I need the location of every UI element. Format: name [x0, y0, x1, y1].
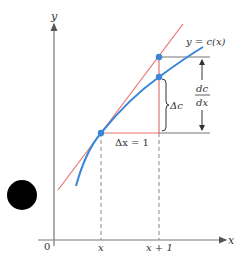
tangent-point-at-x-plus-1: [156, 54, 162, 60]
x-tick-label: x: [98, 242, 104, 253]
marginal-cost-diagram: y x 0 x x + 1 y = c(x) Δx = 1 Δc dc dx: [0, 0, 246, 266]
derivative-numerator: dc: [196, 83, 208, 94]
delta-c-label: Δc: [169, 100, 183, 111]
y-axis-label: y: [50, 10, 58, 23]
point-at-x: [98, 130, 104, 136]
origin-label: 0: [44, 241, 50, 252]
x-plus-1-tick-label: x + 1: [146, 242, 173, 253]
delta-c-brace: [162, 79, 169, 131]
delta-x-label: Δx = 1: [115, 137, 149, 148]
curve-point-at-x-plus-1: [156, 74, 162, 80]
black-dot-marker: [7, 180, 37, 210]
derivative-denominator: dx: [196, 97, 208, 108]
curve-label: y = c(x): [185, 36, 226, 47]
cost-curve: [76, 47, 203, 186]
tangent-line: [58, 24, 183, 190]
x-axis-label: x: [228, 234, 235, 247]
